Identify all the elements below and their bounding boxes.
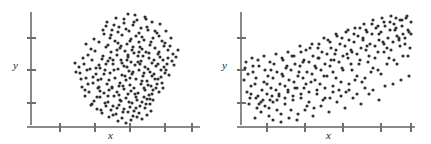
data-point xyxy=(102,91,105,94)
data-point xyxy=(367,54,370,57)
data-point xyxy=(242,78,245,81)
data-point xyxy=(247,102,250,105)
data-point xyxy=(151,36,154,39)
data-point xyxy=(352,40,355,43)
data-point xyxy=(146,67,149,70)
data-point xyxy=(408,46,411,49)
data-point xyxy=(157,50,160,53)
data-point xyxy=(271,100,274,103)
data-point xyxy=(358,26,361,29)
data-point xyxy=(271,118,274,121)
data-point xyxy=(131,45,134,48)
data-point xyxy=(116,119,119,122)
data-point xyxy=(149,40,152,43)
data-point xyxy=(389,48,392,51)
left-plot-canvas xyxy=(0,0,215,144)
data-point xyxy=(118,98,121,101)
data-point xyxy=(158,22,161,25)
data-point xyxy=(121,84,124,87)
data-point xyxy=(359,102,362,105)
data-point xyxy=(319,104,322,107)
data-point xyxy=(106,100,109,103)
data-point xyxy=(263,68,266,71)
right-plot-canvas xyxy=(215,0,431,144)
left-scatterplot-panel: y x xyxy=(0,0,215,144)
data-point xyxy=(366,60,369,63)
data-point xyxy=(117,103,120,106)
data-point xyxy=(364,48,367,51)
data-point xyxy=(167,73,170,76)
data-point xyxy=(131,70,134,73)
data-point xyxy=(111,58,114,61)
data-point xyxy=(307,60,310,63)
data-point xyxy=(406,28,409,31)
data-point xyxy=(313,64,316,67)
data-point xyxy=(325,52,328,55)
data-point xyxy=(125,42,128,45)
data-point xyxy=(111,113,114,116)
data-point xyxy=(137,31,140,34)
data-point xyxy=(278,82,281,85)
data-point xyxy=(257,102,260,105)
data-point xyxy=(347,88,350,91)
data-point xyxy=(391,82,394,85)
data-point xyxy=(299,96,302,99)
data-point xyxy=(403,36,406,39)
data-point xyxy=(377,38,380,41)
data-point xyxy=(170,59,173,62)
data-point xyxy=(305,104,308,107)
data-point xyxy=(148,70,151,73)
data-point xyxy=(322,74,325,77)
data-point xyxy=(94,66,97,69)
data-point xyxy=(158,55,161,58)
data-point xyxy=(310,42,313,45)
data-point xyxy=(328,96,331,99)
data-point xyxy=(305,70,308,73)
data-point xyxy=(150,74,153,77)
data-point xyxy=(409,20,412,23)
data-point xyxy=(161,86,164,89)
data-point xyxy=(251,64,254,67)
data-point xyxy=(320,50,323,53)
data-point xyxy=(355,92,358,95)
data-point xyxy=(82,62,85,65)
data-point xyxy=(349,62,352,65)
data-point xyxy=(313,78,316,81)
data-point xyxy=(262,54,265,57)
data-point xyxy=(79,77,82,80)
data-point xyxy=(116,30,119,33)
data-point xyxy=(107,78,110,81)
data-point xyxy=(279,120,282,123)
data-point xyxy=(388,28,391,31)
data-point xyxy=(253,82,256,85)
data-point xyxy=(100,111,103,114)
data-point xyxy=(399,78,402,81)
data-point xyxy=(134,106,137,109)
data-point xyxy=(142,38,145,41)
data-point xyxy=(160,81,163,84)
data-point xyxy=(138,104,141,107)
data-point xyxy=(347,82,350,85)
data-point xyxy=(156,62,159,65)
data-point xyxy=(292,80,295,83)
data-point xyxy=(93,49,96,52)
data-point xyxy=(382,20,385,23)
data-point xyxy=(73,61,76,64)
data-point xyxy=(125,58,128,61)
data-point xyxy=(95,107,98,110)
data-point xyxy=(267,106,270,109)
data-point xyxy=(347,38,350,41)
data-point xyxy=(97,63,100,66)
data-point xyxy=(85,68,88,71)
data-point xyxy=(160,39,163,42)
data-point xyxy=(380,16,383,19)
data-point xyxy=(385,62,388,65)
data-point xyxy=(367,92,370,95)
data-point xyxy=(312,106,315,109)
data-point xyxy=(118,81,121,84)
data-point xyxy=(259,110,262,113)
data-point xyxy=(96,78,99,81)
data-point xyxy=(355,52,358,55)
data-point xyxy=(137,50,140,53)
data-point xyxy=(159,68,162,71)
